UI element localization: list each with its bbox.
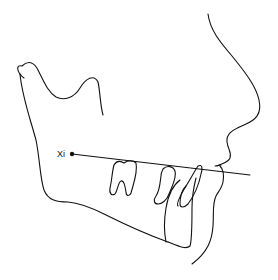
xi-reference-line [72,154,250,175]
symphysis-inner [165,180,181,242]
cephalometric-diagram: Xi [0,0,278,280]
incisor-tooth [180,165,202,207]
xi-label: Xi [57,149,65,159]
lower-lip-chin [192,166,224,264]
incisor-root [177,186,186,206]
molar-tooth [110,161,137,196]
premolar-tooth [154,167,175,204]
mandible-ramus [18,63,103,115]
xi-point [70,152,74,156]
mandible-posterior-lower-border [20,74,168,242]
soft-tissue-profile [208,14,260,166]
